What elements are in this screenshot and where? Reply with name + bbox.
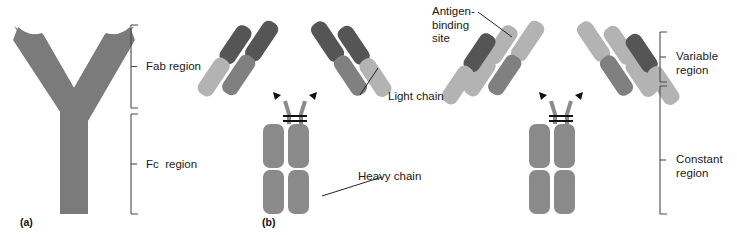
constant-region-line-2: region — [676, 167, 723, 181]
panel-b-fc-stem — [263, 124, 309, 214]
variable-region-line-1: Variable — [676, 50, 718, 64]
panel-c-antibody — [439, 18, 682, 214]
right-heavy-chain-CH3 — [554, 170, 575, 214]
constant-region-label: Constant region — [676, 153, 723, 180]
right-junction-arrow — [309, 92, 317, 100]
left-junction-arrow — [273, 92, 281, 100]
variable-region-line-2: region — [676, 64, 718, 78]
light-chain-label: Light chain — [388, 90, 444, 104]
panel-a-brackets — [131, 25, 138, 214]
right-junction-arrow — [575, 92, 583, 100]
antigen-binding-line-2: binding — [432, 19, 475, 33]
antigen-binding-line-3: site — [432, 32, 475, 46]
fab-region-label: Fab region — [146, 60, 201, 74]
heavy-chain-label: Heavy chain — [358, 170, 421, 184]
panel-c-disulfide-bonds — [549, 116, 573, 121]
variable-region-label: Variable region — [676, 50, 718, 77]
panel-c-brackets — [660, 32, 667, 214]
panel-b-label: (b) — [262, 216, 275, 228]
antigen-binding-site-label: Antigen- binding site — [432, 5, 475, 46]
panel-a-label: (a) — [20, 216, 33, 228]
y-left-arm — [14, 26, 80, 107]
right-heavy-chain-CH2 — [554, 124, 575, 168]
left-junction-arrow — [539, 92, 547, 100]
left-heavy-chain-CH3 — [263, 170, 284, 214]
panel-b-disulfide-bonds — [283, 116, 307, 121]
constant-region-bracket — [660, 86, 667, 214]
left-heavy-chain-CH2 — [263, 124, 284, 168]
right-heavy-chain-CH2 — [288, 124, 309, 168]
panel-c-fc-stem — [529, 124, 575, 214]
antigen-binding-line-1: Antigen- — [432, 5, 475, 19]
panel-b-antibody — [195, 18, 394, 214]
constant-region-line-1: Constant — [676, 153, 723, 167]
fc-region-label: Fc region — [146, 158, 197, 172]
y-stem — [60, 96, 88, 214]
antibody-structure-figure: Fab region Fc region Light chain Heavy c… — [0, 0, 737, 235]
right-heavy-chain-CH3 — [288, 170, 309, 214]
panel-a-y-silhouette — [13, 26, 135, 214]
antigen-binding-site-leader — [478, 12, 512, 37]
figure-canvas — [0, 0, 737, 235]
left-heavy-chain-CH3 — [529, 170, 550, 214]
left-heavy-chain-CH2 — [529, 124, 550, 168]
